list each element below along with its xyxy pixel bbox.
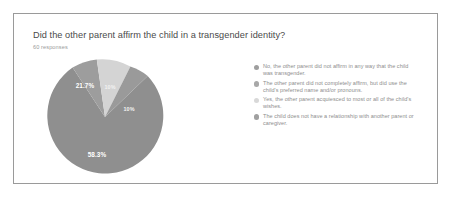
page-title: Did the other parent affirm the child in… xyxy=(33,30,363,41)
legend-dot-no-affirm xyxy=(254,65,259,70)
legend-item-label: The other parent did not completely affi… xyxy=(263,80,415,94)
legend-item[interactable]: The child does not have a relationship w… xyxy=(254,113,444,127)
pie-slice-label: 21.7% xyxy=(76,82,95,89)
legend-item[interactable]: No, the other parent did not affirm in a… xyxy=(254,63,444,77)
legend-item[interactable]: The other parent did not completely affi… xyxy=(254,80,444,94)
pie-chart-area: 58.3%21.7%10%10% xyxy=(22,56,237,180)
legend-item-label: Yes, the other parent acquiesced to most… xyxy=(263,96,415,110)
pie-chart-svg: 58.3%21.7%10%10% xyxy=(46,58,164,176)
pie-slice-label: 10% xyxy=(123,106,134,112)
pie-chart: 58.3%21.7%10%10% xyxy=(46,58,164,176)
response-count: 60 responses xyxy=(33,44,68,51)
legend-dot-yes-acquiesced xyxy=(254,98,259,103)
legend-dot-no-relationship xyxy=(254,114,259,119)
chart-legend: No, the other parent did not affirm in a… xyxy=(254,63,444,129)
legend-dot-partial-affirm xyxy=(254,81,259,86)
survey-result-card: Did the other parent affirm the child in… xyxy=(13,13,438,184)
screenshot-root: Did the other parent affirm the child in… xyxy=(0,0,452,207)
legend-item-label: The child does not have a relationship w… xyxy=(263,113,415,127)
pie-slice-label: 58.3% xyxy=(88,151,107,158)
legend-item[interactable]: Yes, the other parent acquiesced to most… xyxy=(254,96,444,110)
legend-item-label: No, the other parent did not affirm in a… xyxy=(263,63,415,77)
pie-slice-label: 10% xyxy=(104,84,115,90)
